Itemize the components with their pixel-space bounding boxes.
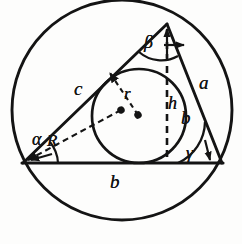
label-side-a: a [199,73,209,92]
diagram-canvas [0,0,242,244]
label-height-h: h [168,94,177,112]
label-angle-alpha: α [32,130,41,148]
label-angle-beta: β [144,33,153,51]
geometry-figure: c a b b h r R α β γ [0,0,242,244]
angle-pointer-gamma [205,140,210,160]
circumradius-line-R [28,110,121,160]
label-side-b-base: b [110,172,120,191]
circumcircle [12,0,232,220]
label-side-b-interior: b [181,108,191,127]
label-angle-gamma: γ [186,144,193,162]
label-inradius-r: r [124,85,131,102]
label-circumradius-R: R [47,132,57,149]
angle-arc-beta [139,52,178,60]
angle-pointer-alpha [31,154,52,160]
label-side-c: c [74,79,82,98]
